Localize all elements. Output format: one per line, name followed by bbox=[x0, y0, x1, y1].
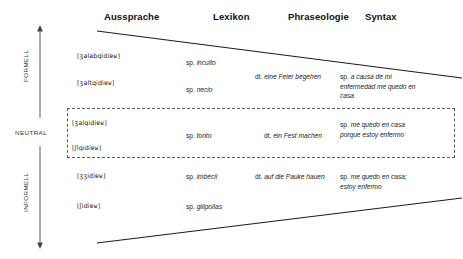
cell-lexikon-neutral: sp. tonto bbox=[186, 131, 211, 141]
cell-lexikon-informal-2: sp. gilipollas bbox=[186, 202, 222, 212]
term: ein Fest machen bbox=[273, 132, 322, 139]
term: tonto bbox=[197, 132, 212, 139]
register-variation-diagram: Aussprache Lexikon Phraseologie Syntax F… bbox=[0, 0, 463, 259]
axis-label-formell: FORMELL bbox=[22, 50, 29, 82]
column-header-aussprache: Aussprache bbox=[104, 11, 159, 22]
axis-label-neutral: NEUTRAL bbox=[15, 129, 47, 136]
term: a causa de mi enfermedad me quedo en cas… bbox=[340, 73, 416, 99]
lower-wedge-line bbox=[97, 198, 462, 243]
lang-abbr: sp. bbox=[186, 59, 195, 66]
cell-syntax-informal: sp. me quedo en casa; estoy enfermo bbox=[340, 172, 424, 191]
lang-abbr: sp. bbox=[186, 173, 195, 180]
term: me quedo en casa porque estoy enfermo bbox=[340, 121, 405, 138]
cell-aussprache-formal-2: [ʒaltqidiɐʁ] bbox=[77, 79, 114, 88]
cell-phraseologie-informal: dt. auf die Pauke hauen bbox=[255, 172, 327, 182]
cell-aussprache-informal-2: [ʃidiɐʁ] bbox=[77, 202, 100, 211]
column-header-syntax: Syntax bbox=[365, 11, 397, 22]
cell-syntax-neutral: sp. me quedo en casa porque estoy enferm… bbox=[340, 120, 420, 139]
lang-abbr: sp. bbox=[186, 86, 195, 93]
column-header-phraseologie: Phraseologie bbox=[288, 11, 349, 22]
lang-abbr: dt. bbox=[255, 73, 262, 80]
cell-lexikon-formal-1: sp. inculto bbox=[186, 58, 216, 68]
lang-abbr: sp. bbox=[340, 173, 349, 180]
cell-phraseologie-neutral: dt. ein Fest machen bbox=[264, 131, 334, 141]
term: inculto bbox=[197, 59, 216, 66]
lang-abbr: dt. bbox=[255, 173, 262, 180]
cell-syntax-formal: sp. a causa de mi enfermedad me quedo en… bbox=[340, 72, 418, 101]
term: auf die Pauke hauen bbox=[264, 173, 325, 180]
lang-abbr: sp. bbox=[340, 73, 349, 80]
term: imbécil bbox=[197, 173, 218, 180]
upper-wedge-line bbox=[97, 31, 462, 78]
term: necio bbox=[197, 86, 213, 93]
axis-label-informell: INFORMELL bbox=[22, 173, 29, 212]
axis-arrow-up-icon bbox=[37, 25, 43, 32]
cell-lexikon-informal-1: sp. imbécil bbox=[186, 172, 217, 182]
column-header-lexikon: Lexikon bbox=[213, 11, 250, 22]
cell-aussprache-neutral-1: [ʒalqidiɐʁ] bbox=[72, 119, 107, 128]
lang-abbr: sp. bbox=[186, 132, 195, 139]
axis-arrow-down-icon bbox=[37, 243, 43, 250]
term: gilipollas bbox=[197, 203, 222, 210]
lang-abbr: dt. bbox=[264, 132, 271, 139]
lang-abbr: sp. bbox=[340, 121, 349, 128]
cell-aussprache-informal-1: [ʒʒidiɐʁ] bbox=[77, 172, 106, 181]
term: eine Feier begehen bbox=[264, 73, 321, 80]
cell-phraseologie-formal: dt. eine Feier begehen bbox=[255, 72, 325, 82]
cell-aussprache-formal-1: [ʒalabqidiɐʁ] bbox=[77, 52, 120, 61]
term: me quedo en casa; estoy enfermo bbox=[340, 173, 407, 190]
cell-lexikon-formal-2: sp. necio bbox=[186, 85, 212, 95]
cell-aussprache-neutral-2: [ʃlqidiɐʁ] bbox=[72, 144, 101, 153]
lang-abbr: sp. bbox=[186, 203, 195, 210]
